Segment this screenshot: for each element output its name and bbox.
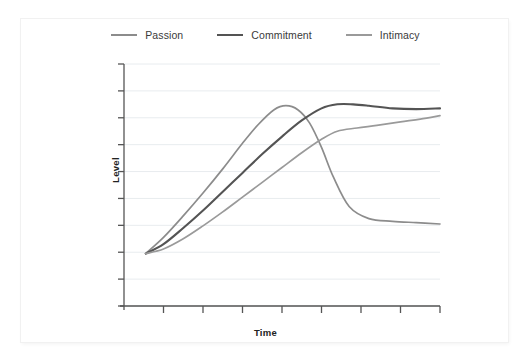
chart-screenshot: Passion Commitment Intimacy Level Time <box>0 0 531 363</box>
x-axis-title: Time <box>0 327 531 338</box>
series-line-intimacy <box>146 116 440 254</box>
x-axis <box>120 306 440 313</box>
y-axis <box>118 64 124 310</box>
plot-area <box>0 0 531 363</box>
series-lines <box>146 104 440 254</box>
gridlines <box>124 64 440 306</box>
series-line-commitment <box>146 104 440 254</box>
line-chart: Passion Commitment Intimacy Level Time <box>0 0 531 363</box>
